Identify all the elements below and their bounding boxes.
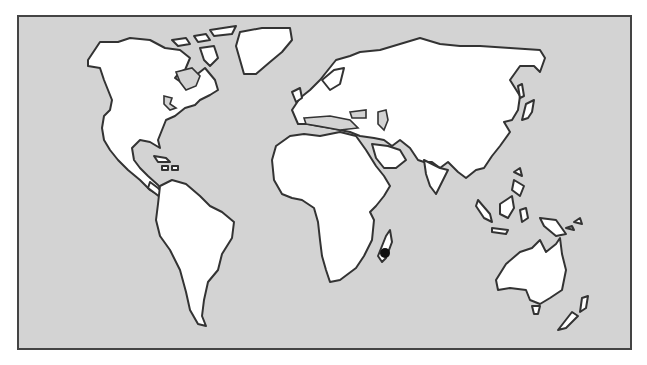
africa [272,132,390,282]
philippines [512,180,524,196]
australia [496,238,566,304]
japan [522,100,534,120]
north-america [88,38,218,196]
sumatra [476,200,492,222]
taiwan [514,168,522,176]
caribbean-islands [154,156,178,170]
tasmania [532,306,540,314]
arabia [372,144,406,168]
south-america [156,180,234,326]
sakhalin [518,84,524,98]
black-sea [350,110,366,118]
pacific-islands [566,218,582,230]
british-isles [292,88,302,102]
java [492,228,508,234]
new-guinea [540,218,566,236]
new-zealand [558,296,588,330]
world-map [0,0,647,365]
location-marker[interactable] [380,248,390,258]
sulawesi [520,208,528,222]
greenland [236,28,292,74]
borneo [500,196,514,218]
